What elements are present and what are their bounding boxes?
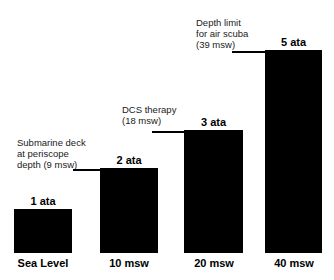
category-label-10-msw: 10 msw	[89, 257, 169, 270]
category-label-20-msw: 20 msw	[174, 257, 254, 270]
annotation-dcs-therapy-line-1: DCS therapy	[122, 104, 176, 115]
bar-value-sea-level: 1 ata	[14, 195, 72, 207]
bar-value-20-msw: 3 ata	[184, 116, 243, 128]
annotation-depth-limit-line-3: (39 msw)	[196, 39, 248, 50]
bar-value-10-msw: 2 ata	[100, 154, 158, 166]
bar-value-40-msw: 5 ata	[265, 36, 322, 48]
category-label-sea-level: Sea Level	[3, 257, 83, 270]
leader-line-depth-limit-air-scuba	[232, 51, 266, 53]
bar-10-msw	[100, 168, 158, 253]
annotation-depth-limit-air-scuba: Depth limit for air scuba (39 msw)	[196, 17, 248, 50]
leader-line-submarine-deck	[73, 169, 101, 171]
category-label-40-msw: 40 msw	[254, 257, 334, 270]
annotation-dcs-therapy: DCS therapy (18 msw)	[122, 104, 176, 126]
bar-sea-level	[14, 209, 72, 253]
annotation-submarine-deck-line-1: Submarine deck	[17, 137, 86, 148]
leader-line-dcs-therapy	[152, 131, 185, 133]
bar-20-msw	[184, 130, 243, 253]
bar-40-msw	[265, 50, 322, 253]
pressure-depth-bar-chart: 1 ata 2 ata 3 ata 5 ata Sea Level 10 msw…	[0, 0, 334, 280]
annotation-depth-limit-line-1: Depth limit	[196, 17, 248, 28]
annotation-submarine-deck-line-2: at periscope	[17, 148, 86, 159]
annotation-dcs-therapy-line-2: (18 msw)	[122, 115, 176, 126]
annotation-depth-limit-line-2: for air scuba	[196, 28, 248, 39]
annotation-submarine-deck: Submarine deck at periscope depth (9 msw…	[17, 137, 86, 170]
